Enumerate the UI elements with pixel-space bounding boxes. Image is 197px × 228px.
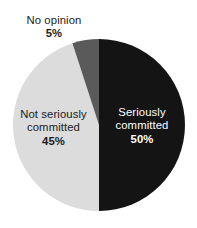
- pie-label-no-opinion: No opinion 5%: [8, 14, 100, 41]
- pie-label-no-opinion-value: 5%: [8, 27, 100, 40]
- pie-label-seriously-text-line2: committed: [106, 119, 178, 132]
- pie-label-not-seriously-committed: Not seriously committed 45%: [11, 108, 96, 148]
- pie-label-not-seriously-text-line1: Not seriously: [11, 108, 96, 121]
- pie-label-seriously-committed: Seriously committed 50%: [106, 106, 178, 146]
- pie-label-not-seriously-text-line2: committed: [11, 121, 96, 134]
- pie-label-not-seriously-value: 45%: [11, 135, 96, 148]
- pie-label-no-opinion-text: No opinion: [8, 14, 100, 27]
- pie-label-seriously-value: 50%: [106, 133, 178, 146]
- pie-label-seriously-text-line1: Seriously: [106, 106, 178, 119]
- pie-chart: No opinion 5% Not seriously committed 45…: [0, 0, 197, 228]
